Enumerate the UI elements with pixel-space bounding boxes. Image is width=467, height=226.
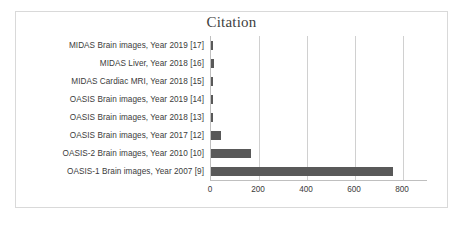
bar-slot: [211, 144, 427, 162]
category-label: MIDAS Brain images, Year 2019 [17]: [16, 36, 210, 54]
value-axis-labels: 0200400600800: [210, 182, 426, 198]
category-label: MIDAS Cardiac MRI, Year 2018 [15]: [16, 72, 210, 90]
bar[interactable]: [211, 41, 213, 50]
bar-slot: [211, 72, 427, 90]
bar[interactable]: [211, 167, 393, 176]
category-label: OASIS Brain images, Year 2019 [14]: [16, 90, 210, 108]
category-label: OASIS Brain images, Year 2018 [13]: [16, 108, 210, 126]
category-label: MIDAS Liver, Year 2018 [16]: [16, 54, 210, 72]
xtick-label: 400: [299, 185, 313, 194]
xtick-label: 200: [251, 185, 265, 194]
xtick-label: 600: [347, 185, 361, 194]
bar-series: [211, 36, 427, 180]
bar-slot: [211, 90, 427, 108]
bar[interactable]: [211, 113, 213, 122]
plot-wrapper: MIDAS Brain images, Year 2019 [17]MIDAS …: [16, 36, 449, 209]
bar-slot: [211, 36, 427, 54]
bar[interactable]: [211, 95, 213, 104]
bar[interactable]: [211, 59, 214, 68]
bar[interactable]: [211, 131, 221, 140]
chart-title: Citation: [16, 14, 447, 31]
bar-slot: [211, 108, 427, 126]
bar[interactable]: [211, 77, 213, 86]
bar-slot: [211, 162, 427, 180]
bar-slot: [211, 54, 427, 72]
category-label: OASIS-1 Brain images, Year 2007 [9]: [16, 162, 210, 180]
xtick-label: 0: [208, 185, 213, 194]
category-label: OASIS-2 Brain images, Year 2010 [10]: [16, 144, 210, 162]
category-label: OASIS Brain images, Year 2017 [12]: [16, 126, 210, 144]
xtick-label: 800: [395, 185, 409, 194]
plot-area: [210, 36, 427, 181]
category-axis-labels: MIDAS Brain images, Year 2019 [17]MIDAS …: [16, 36, 210, 180]
chart-figure: Citation MIDAS Brain images, Year 2019 […: [15, 11, 448, 208]
bar[interactable]: [211, 149, 251, 158]
bar-slot: [211, 126, 427, 144]
